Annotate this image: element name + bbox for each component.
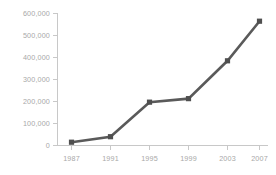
x-tick-label-1987: 1987 — [63, 154, 80, 163]
data-point-1991 — [108, 134, 113, 139]
data-point-2003 — [225, 58, 230, 63]
line-chart: 600,000 500,000 400,000 300,000 200,000 … — [0, 0, 276, 175]
y-tick-label-600000: 600,000 — [23, 9, 50, 18]
y-tick-label-0: 0 — [46, 141, 50, 150]
y-tick-label-300000: 300,000 — [23, 75, 50, 84]
x-tick-label-2003: 2003 — [219, 154, 236, 163]
data-point-1995 — [147, 100, 152, 105]
x-tick-label-1991: 1991 — [102, 154, 119, 163]
y-tick-label-400000: 400,000 — [23, 53, 50, 62]
y-tick-label-200000: 200,000 — [23, 97, 50, 106]
x-tick-label-1999: 1999 — [180, 154, 197, 163]
x-tick-label-1995: 1995 — [141, 154, 158, 163]
data-point-1999 — [186, 96, 191, 101]
data-point-2007 — [257, 19, 262, 24]
x-tick-label-2007: 2007 — [251, 154, 268, 163]
data-point-1987 — [69, 140, 74, 145]
chart-canvas: 600,000 500,000 400,000 300,000 200,000 … — [0, 0, 276, 175]
y-tick-label-100000: 100,000 — [23, 119, 50, 128]
y-tick-label-500000: 500,000 — [23, 31, 50, 40]
chart-background — [0, 0, 276, 175]
